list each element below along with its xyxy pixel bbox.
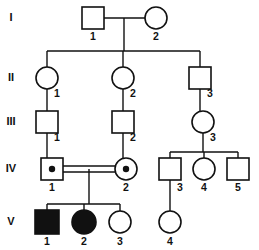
individual-number-label: 2 <box>130 87 136 99</box>
individual-iv-5[interactable] <box>227 158 249 180</box>
individual-number-label: 1 <box>44 235 50 247</box>
individual-iii-2[interactable] <box>112 111 134 133</box>
individual-i-1[interactable] <box>82 7 104 29</box>
individual-number-label: 3 <box>207 87 213 99</box>
individual-number-label: 1 <box>49 181 55 193</box>
female-circle-symbol <box>72 210 96 234</box>
individual-ii-3[interactable] <box>189 67 211 89</box>
individual-id-label-layer: 12123123123451234 <box>44 30 241 247</box>
male-square-symbol <box>35 210 59 234</box>
male-square-symbol <box>36 111 58 133</box>
individual-number-label: 2 <box>130 131 136 143</box>
male-square-symbol <box>189 67 211 89</box>
individual-iv-2[interactable] <box>115 158 137 180</box>
individual-number-label: 2 <box>123 181 129 193</box>
individual-v-1[interactable] <box>35 210 59 234</box>
generation-label-iii: III <box>6 115 15 127</box>
individual-number-label: 3 <box>177 181 183 193</box>
pedigree-canvas: 12123123123451234 IIIIIIIVV <box>0 0 259 250</box>
male-square-symbol <box>227 158 249 180</box>
male-square-symbol <box>82 7 104 29</box>
individual-number-label: 2 <box>153 30 159 42</box>
individual-ii-2[interactable] <box>112 67 134 89</box>
individual-number-label: 3 <box>210 131 216 143</box>
individual-number-label: 4 <box>201 181 207 193</box>
female-circle-symbol <box>192 111 214 133</box>
carrier-dot-icon <box>123 166 129 172</box>
individual-number-label: 4 <box>167 235 173 247</box>
individual-iv-1[interactable] <box>41 158 63 180</box>
male-square-symbol <box>112 111 134 133</box>
individual-number-label: 5 <box>235 181 241 193</box>
symbol-layer <box>35 7 249 234</box>
generation-label-layer: IIIIIIIVV <box>6 11 17 227</box>
carrier-dot-icon <box>49 166 55 172</box>
male-square-symbol <box>159 158 181 180</box>
individual-number-label: 2 <box>81 235 87 247</box>
pedigree-chart: 12123123123451234 IIIIIIIVV <box>0 0 259 250</box>
individual-v-2[interactable] <box>72 210 96 234</box>
generation-label-v: V <box>7 215 15 227</box>
individual-number-label: 3 <box>117 235 123 247</box>
individual-iii-1[interactable] <box>36 111 58 133</box>
female-circle-symbol <box>109 211 131 233</box>
female-circle-symbol <box>193 158 215 180</box>
individual-v-4[interactable] <box>159 211 181 233</box>
individual-number-label: 1 <box>54 87 60 99</box>
individual-iv-3[interactable] <box>159 158 181 180</box>
female-circle-symbol <box>145 7 167 29</box>
female-circle-symbol <box>159 211 181 233</box>
generation-label-i: I <box>9 11 12 23</box>
female-circle-symbol <box>112 67 134 89</box>
individual-number-label: 1 <box>54 131 60 143</box>
individual-iii-3[interactable] <box>192 111 214 133</box>
generation-label-ii: II <box>8 71 14 83</box>
individual-i-2[interactable] <box>145 7 167 29</box>
individual-iv-4[interactable] <box>193 158 215 180</box>
individual-ii-1[interactable] <box>36 67 58 89</box>
female-circle-symbol <box>36 67 58 89</box>
individual-v-3[interactable] <box>109 211 131 233</box>
individual-number-label: 1 <box>90 30 96 42</box>
generation-label-iv: IV <box>6 162 17 174</box>
